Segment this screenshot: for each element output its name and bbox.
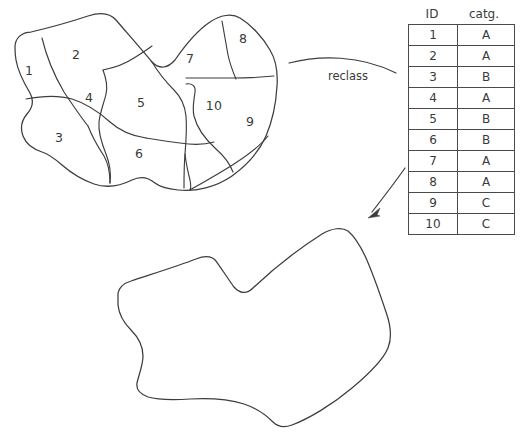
diagram-canvas: 1 2 3 4 5 6 7 8 9 10 reclass ID catg. 1 … xyxy=(0,0,522,440)
result-polygon-fill xyxy=(118,229,390,427)
result-map-graphic xyxy=(0,0,522,440)
